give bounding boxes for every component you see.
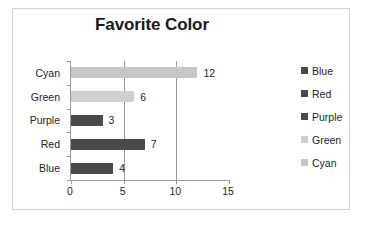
bar-value-green: 6 <box>140 91 146 103</box>
x-axis-tick-10 <box>176 180 177 184</box>
x-axis-label-15: 15 <box>222 185 234 197</box>
x-axis-tick-15 <box>229 180 230 184</box>
x-axis-tick-0 <box>71 180 72 184</box>
y-axis-label-cyan: Cyan <box>13 61 65 85</box>
y-axis-category-labels: Cyan Green Purple Red Blue <box>13 61 65 180</box>
legend-swatch-purple-icon <box>301 113 308 120</box>
y-axis-label-red: Red <box>13 132 65 156</box>
bar-row-purple: 3 <box>71 109 229 133</box>
x-axis-label-0: 0 <box>67 185 73 197</box>
bar-value-red: 7 <box>151 138 157 150</box>
x-axis-label-5: 5 <box>120 185 126 197</box>
legend-label-cyan: Cyan <box>312 157 337 169</box>
bar-series-group: 12 6 3 7 <box>71 61 229 180</box>
legend-item-green[interactable]: Green <box>301 128 363 151</box>
bar-row-green: 6 <box>71 85 229 109</box>
bar-value-purple: 3 <box>109 114 115 126</box>
x-axis-tick-labels: 0 5 10 15 <box>70 185 228 201</box>
bar-row-cyan: 12 <box>71 61 229 85</box>
bar-red[interactable]: 7 <box>71 139 145 150</box>
x-axis-label-10: 10 <box>169 185 181 197</box>
legend-item-purple[interactable]: Purple <box>301 105 363 128</box>
legend-label-blue: Blue <box>312 65 333 77</box>
bar-cyan[interactable]: 12 <box>71 67 197 78</box>
legend-item-cyan[interactable]: Cyan <box>301 151 363 174</box>
legend-item-red[interactable]: Red <box>301 82 363 105</box>
legend-label-green: Green <box>312 134 341 146</box>
legend-item-blue[interactable]: Blue <box>301 59 363 82</box>
bar-row-red: 7 <box>71 132 229 156</box>
legend-label-red: Red <box>312 88 331 100</box>
bar-value-blue: 4 <box>119 162 125 174</box>
legend-label-purple: Purple <box>312 111 342 123</box>
legend-swatch-red-icon <box>301 90 308 97</box>
plot-area: 12 6 3 7 <box>70 61 229 181</box>
plot-region: Cyan Green Purple Red Blue 12 <box>13 51 291 203</box>
y-axis-label-blue: Blue <box>13 156 65 180</box>
chart-title: Favorite Color <box>13 15 291 35</box>
chart-container: Favorite Color Cyan Green Purple Red Blu… <box>12 8 350 210</box>
bar-value-cyan: 12 <box>203 67 215 79</box>
chart-legend: Blue Red Purple Green Cyan <box>301 59 363 174</box>
x-axis-tick-5 <box>124 180 125 184</box>
legend-swatch-blue-icon <box>301 67 308 74</box>
bar-purple[interactable]: 3 <box>71 115 103 126</box>
bar-green[interactable]: 6 <box>71 91 134 102</box>
y-axis-label-purple: Purple <box>13 109 65 133</box>
bar-blue[interactable]: 4 <box>71 163 113 174</box>
legend-swatch-green-icon <box>301 136 308 143</box>
bar-row-blue: 4 <box>71 156 229 180</box>
legend-swatch-cyan-icon <box>301 159 308 166</box>
y-axis-label-green: Green <box>13 85 65 109</box>
